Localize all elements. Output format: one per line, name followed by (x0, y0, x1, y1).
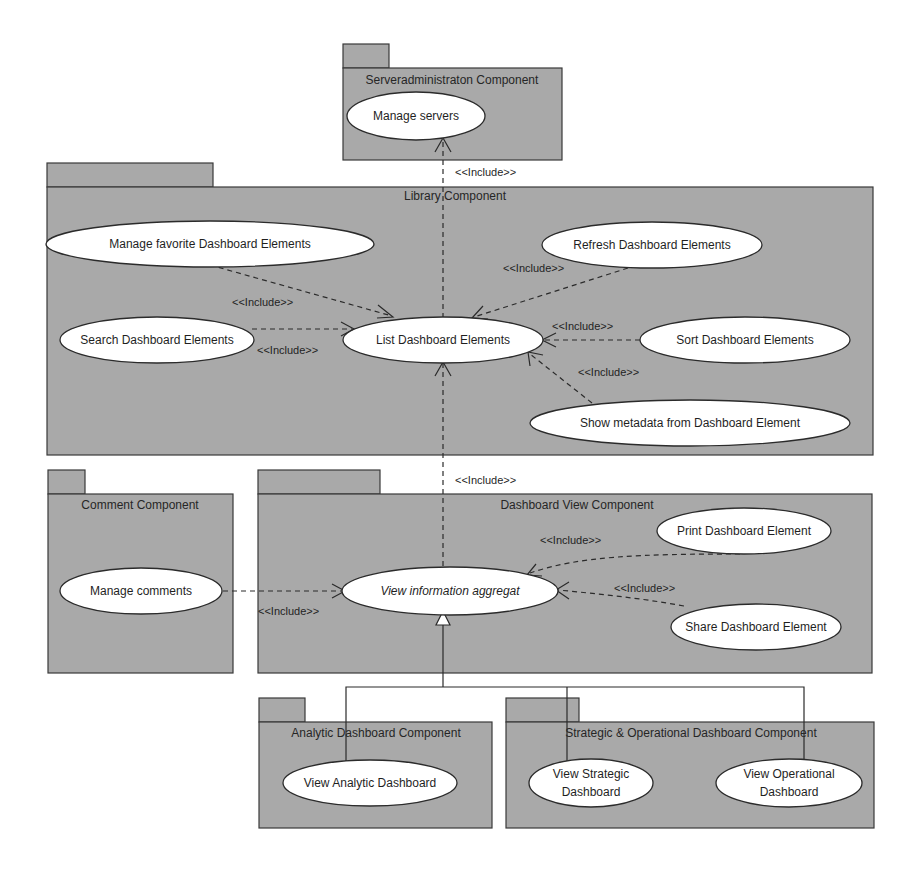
svg-text:Share Dashboard Element: Share Dashboard Element (685, 620, 827, 634)
package-tab (47, 163, 213, 187)
include-label: <<Include>> (258, 605, 319, 617)
svg-text:Show metadata from Dashboard E: Show metadata from Dashboard Element (580, 416, 801, 430)
use-case-diagram: Serveradministraton Component Library Co… (0, 0, 923, 869)
usecase-view-information-aggregat[interactable]: View information aggregat (342, 567, 558, 615)
svg-text:Dashboard: Dashboard (760, 785, 819, 799)
usecase-share[interactable]: Share Dashboard Element (671, 604, 841, 650)
svg-text:View Operational: View Operational (743, 767, 834, 781)
package-title: Library Component (404, 189, 507, 203)
svg-text:Manage comments: Manage comments (90, 584, 192, 598)
svg-text:View Strategic: View Strategic (553, 767, 629, 781)
package-tab (258, 470, 380, 494)
package-title: Analytic Dashboard Component (291, 726, 461, 740)
package-title: Dashboard View Component (500, 498, 654, 512)
package-tab (506, 698, 579, 722)
svg-text:View Analytic Dashboard: View Analytic Dashboard (304, 776, 437, 790)
include-label: <<Include>> (455, 474, 516, 486)
usecase-manage-favorite[interactable]: Manage favorite Dashboard Elements (46, 221, 374, 267)
include-label: <<Include>> (503, 262, 564, 274)
package-tab (48, 470, 85, 494)
usecase-search[interactable]: Search Dashboard Elements (60, 317, 254, 363)
svg-text:Manage favorite Dashboard Elem: Manage favorite Dashboard Elements (109, 237, 310, 251)
include-label: <<Include>> (614, 582, 675, 594)
svg-text:Print Dashboard Element: Print Dashboard Element (677, 524, 812, 538)
svg-text:Search Dashboard Elements: Search Dashboard Elements (80, 333, 233, 347)
package-title: Comment Component (81, 498, 199, 512)
usecase-sort[interactable]: Sort Dashboard Elements (640, 317, 850, 363)
usecase-view-operational-dashboard[interactable]: View Operational Dashboard (716, 759, 862, 807)
usecase-list[interactable]: List Dashboard Elements (343, 317, 543, 363)
usecase-show-metadata[interactable]: Show metadata from Dashboard Element (530, 400, 850, 446)
svg-text:Dashboard: Dashboard (562, 785, 621, 799)
include-label: <<Include>> (540, 534, 601, 546)
package-title: Serveradministraton Component (366, 73, 539, 87)
include-label: <<Include>> (578, 366, 639, 378)
package-title: Strategic & Operational Dashboard Compon… (565, 726, 817, 740)
include-label: <<Include>> (455, 166, 516, 178)
usecase-manage-servers[interactable]: Manage servers (347, 92, 485, 140)
include-label: <<Include>> (232, 296, 293, 308)
svg-text:List Dashboard Elements: List Dashboard Elements (376, 333, 510, 347)
usecase-print[interactable]: Print Dashboard Element (657, 508, 831, 554)
usecase-view-strategic-dashboard[interactable]: View Strategic Dashboard (529, 759, 653, 807)
svg-text:Refresh Dashboard Elements: Refresh Dashboard Elements (573, 238, 730, 252)
usecase-refresh[interactable]: Refresh Dashboard Elements (542, 222, 762, 268)
package-tab (259, 698, 305, 722)
svg-text:View information aggregat: View information aggregat (380, 584, 520, 598)
package-tab (343, 44, 389, 68)
svg-text:Sort Dashboard Elements: Sort Dashboard Elements (676, 333, 813, 347)
include-label: <<Include>> (552, 320, 613, 332)
svg-text:Manage servers: Manage servers (373, 109, 459, 123)
include-label: <<Include>> (257, 344, 318, 356)
usecase-manage-comments[interactable]: Manage comments (60, 568, 222, 614)
usecase-view-analytic-dashboard[interactable]: View Analytic Dashboard (283, 760, 457, 806)
